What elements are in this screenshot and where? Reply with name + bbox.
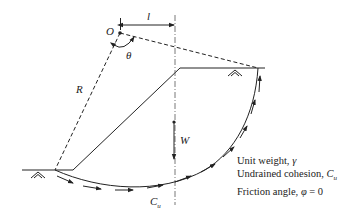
cohesion-label: Cu bbox=[150, 195, 161, 210]
property-unit-weight: Unit weight, γ bbox=[237, 154, 337, 167]
property-undrained-cohesion: Undrained cohesion, Cu bbox=[237, 167, 337, 185]
lever-arm-label: l bbox=[147, 10, 150, 22]
slip-surface bbox=[55, 68, 258, 187]
radius-line bbox=[55, 33, 120, 170]
ground-surface-icon-left bbox=[31, 172, 45, 178]
property-friction-angle: Friction angle, φ = 0 bbox=[237, 185, 337, 198]
center-point bbox=[118, 31, 122, 35]
shear-stress-arrows bbox=[57, 76, 260, 190]
ground-surface-icon-crest bbox=[228, 70, 242, 76]
ground-profile bbox=[22, 68, 265, 170]
soil-properties: Unit weight, γ Undrained cohesion, Cu Fr… bbox=[237, 154, 337, 198]
center-label: O bbox=[106, 25, 114, 37]
angle-label: θ bbox=[126, 49, 132, 61]
radius-label: R bbox=[75, 83, 83, 95]
weight-label: W bbox=[180, 134, 190, 146]
chord-line bbox=[120, 33, 258, 68]
theta-arc bbox=[114, 37, 134, 47]
